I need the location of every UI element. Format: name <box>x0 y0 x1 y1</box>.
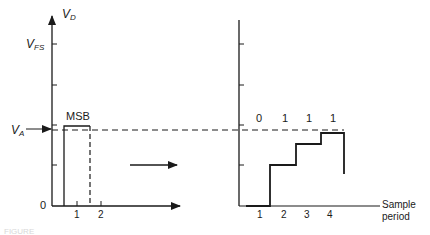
vd-axis-label: VD <box>62 8 76 22</box>
msb-pulse <box>64 126 90 206</box>
right-x-tick-1: 1 <box>257 210 263 220</box>
figure-caption: FIGURE <box>4 228 34 235</box>
right-x-tick-3: 3 <box>304 210 310 220</box>
va-label: VA <box>11 124 24 138</box>
right-x-tick-4: 4 <box>327 210 333 220</box>
dac-conversion-diagram <box>0 0 430 235</box>
sample-period-label-line2: period <box>382 212 410 222</box>
bit-label-4: 1 <box>330 113 336 124</box>
bit-label-2: 1 <box>282 113 288 124</box>
right-x-tick-2: 2 <box>281 210 287 220</box>
bit-label-1: 0 <box>256 113 262 124</box>
vfs-label: VFS <box>26 38 44 52</box>
left-x-tick-2: 2 <box>98 210 104 220</box>
origin-label: 0 <box>40 200 46 211</box>
left-plot <box>26 16 180 206</box>
msb-label: MSB <box>66 111 90 122</box>
approximation-staircase <box>246 133 344 206</box>
bit-label-3: 1 <box>306 113 312 124</box>
left-x-tick-1: 1 <box>74 210 80 220</box>
sample-period-label-line1: Sample <box>382 200 416 210</box>
